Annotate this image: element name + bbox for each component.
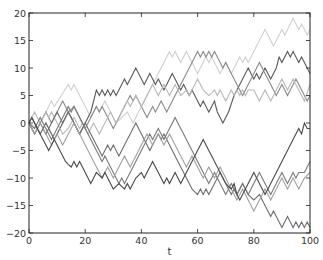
x-tick-label: 0 bbox=[26, 235, 32, 246]
x-tick-label: 100 bbox=[301, 235, 319, 246]
x-tick-label: 20 bbox=[79, 235, 91, 246]
y-tick-label: 10 bbox=[14, 63, 26, 74]
x-tick-label: 40 bbox=[135, 235, 147, 246]
y-tick-label: −15 bbox=[6, 200, 26, 211]
y-tick-labels: 20151050−5−10−15−20 bbox=[6, 8, 26, 239]
series-line-8 bbox=[29, 118, 310, 201]
random-walk-chart: 020406080100 20151050−5−10−15−20 t bbox=[0, 0, 323, 260]
x-tick-labels: 020406080100 bbox=[26, 235, 319, 246]
series-layer bbox=[29, 19, 310, 228]
y-tick-label: 15 bbox=[14, 35, 26, 46]
y-tick-label: 0 bbox=[20, 118, 26, 129]
x-tick-label: 60 bbox=[192, 235, 204, 246]
y-tick-label: 5 bbox=[20, 90, 26, 101]
series-line-3 bbox=[29, 52, 310, 135]
y-tick-label: −5 bbox=[12, 145, 26, 156]
x-tick-label: 80 bbox=[248, 235, 260, 246]
series-line-6 bbox=[29, 107, 310, 195]
x-axis-label: t bbox=[168, 246, 172, 257]
y-tick-label: −20 bbox=[6, 228, 26, 239]
y-tick-label: −10 bbox=[6, 173, 26, 184]
y-tick-label: 20 bbox=[14, 8, 26, 19]
